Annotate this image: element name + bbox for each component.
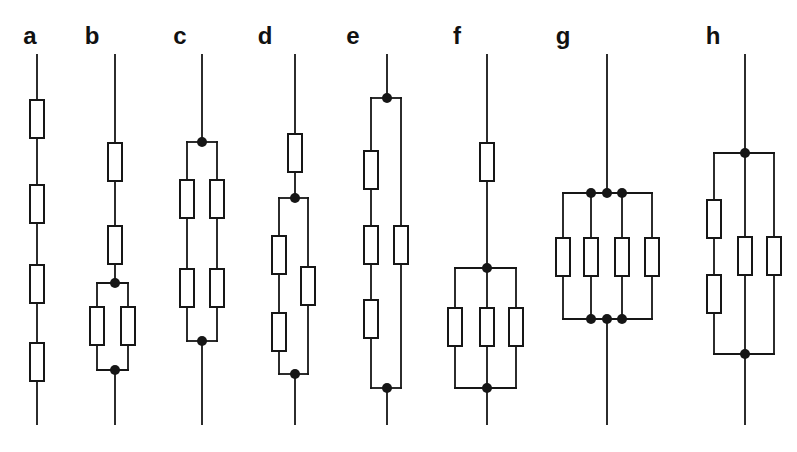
circuit-diagrams-svg — [0, 0, 797, 452]
circuit-e — [364, 55, 408, 424]
resistor — [556, 238, 570, 276]
junction-dot — [617, 314, 627, 324]
resistor — [364, 300, 378, 338]
junction-dot — [602, 188, 612, 198]
resistor — [645, 238, 659, 276]
junction-dot — [740, 148, 750, 158]
resistor — [707, 200, 721, 238]
circuit-label-c: c — [173, 24, 186, 48]
resistor — [288, 134, 302, 172]
circuit-label-g: g — [556, 24, 571, 48]
resistor — [30, 100, 44, 138]
circuit-label-b: b — [85, 24, 100, 48]
circuit-c — [180, 55, 224, 424]
resistor — [509, 308, 523, 346]
junction-dot — [482, 263, 492, 273]
resistor — [615, 238, 629, 276]
figure-canvas: a b c d e f g h — [0, 0, 797, 452]
resistor — [364, 226, 378, 264]
junction-dot — [482, 383, 492, 393]
resistor — [180, 180, 194, 218]
junction-dot — [110, 365, 120, 375]
junction-dot — [197, 336, 207, 346]
resistor — [480, 308, 494, 346]
resistor — [121, 307, 135, 345]
resistor — [90, 307, 104, 345]
resistor — [448, 308, 462, 346]
junction-dot — [382, 383, 392, 393]
junction-dot — [617, 188, 627, 198]
junction-dot — [290, 193, 300, 203]
resistor — [210, 180, 224, 218]
resistor — [480, 143, 494, 181]
circuit-label-e: e — [346, 24, 359, 48]
junction-dot — [740, 349, 750, 359]
resistor — [30, 265, 44, 303]
circuit-d — [272, 55, 315, 424]
resistor — [30, 343, 44, 381]
resistor — [180, 269, 194, 307]
junction-dot — [110, 278, 120, 288]
resistor — [30, 185, 44, 223]
resistor — [108, 226, 122, 264]
resistor — [272, 236, 286, 274]
resistor — [301, 267, 315, 305]
circuit-a — [30, 55, 44, 424]
resistor — [738, 237, 752, 275]
circuit-label-h: h — [706, 24, 721, 48]
resistor — [767, 237, 781, 275]
resistor — [364, 151, 378, 189]
junction-dot — [602, 314, 612, 324]
circuit-label-f: f — [453, 24, 461, 48]
junction-dot — [290, 369, 300, 379]
resistor — [707, 275, 721, 313]
resistor — [108, 143, 122, 181]
resistor — [584, 238, 598, 276]
resistor — [272, 313, 286, 351]
circuit-label-d: d — [258, 24, 273, 48]
junction-dot — [586, 188, 596, 198]
resistor — [394, 226, 408, 264]
resistor — [210, 269, 224, 307]
circuit-f — [448, 55, 523, 424]
circuit-g — [556, 55, 659, 424]
circuit-label-a: a — [23, 24, 36, 48]
circuit-h — [707, 55, 781, 424]
junction-dot — [382, 93, 392, 103]
circuit-b — [90, 55, 135, 424]
junction-dot — [197, 137, 207, 147]
junction-dot — [586, 314, 596, 324]
